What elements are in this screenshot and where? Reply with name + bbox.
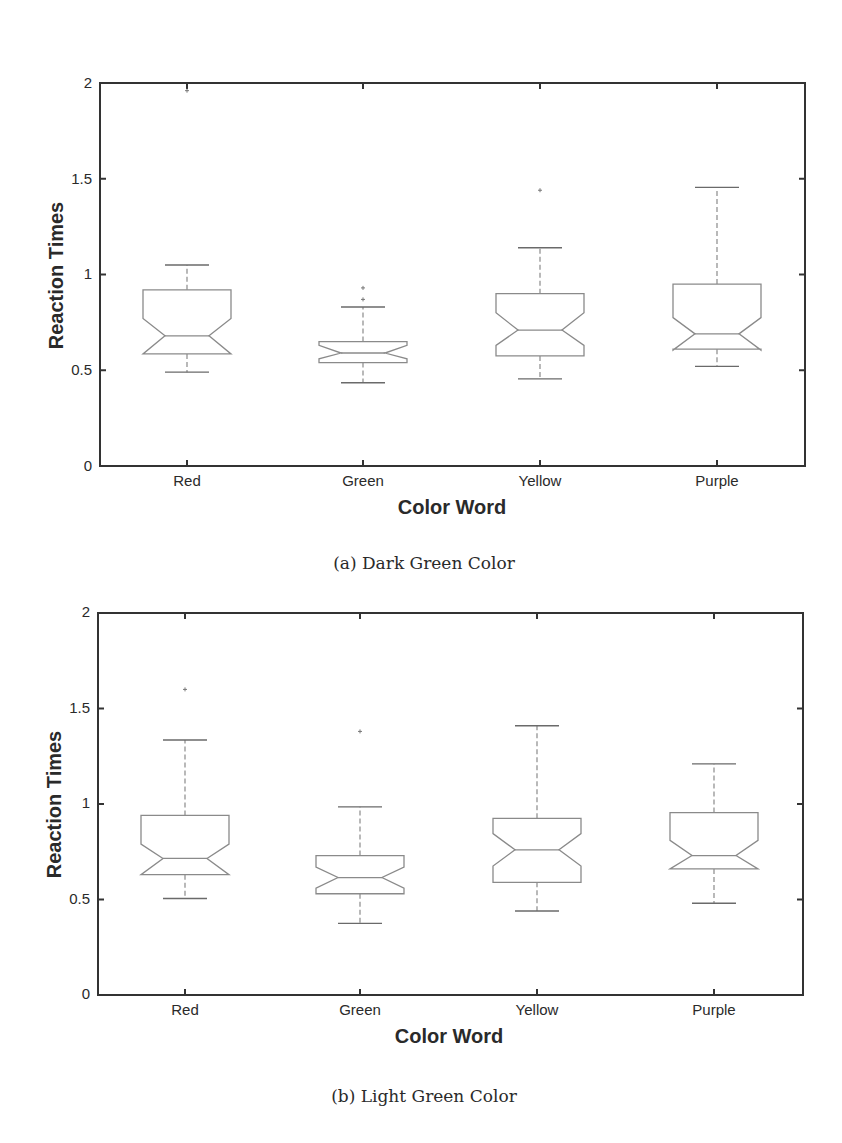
ytick-label: 2 — [50, 603, 90, 620]
boxplot-chart-b — [0, 0, 842, 1143]
xtick-label-red: Red — [135, 1001, 235, 1018]
xtick-label-green: Green — [310, 1001, 410, 1018]
boxplot-yellow — [493, 726, 581, 911]
y-axis-title: Reaction Times — [43, 705, 66, 905]
figure-b: 2 1.5 1 0.5 0 Red Green Yellow Purple Co… — [0, 0, 842, 1143]
xtick-label-yellow: Yellow — [487, 1001, 587, 1018]
boxplot-purple — [670, 764, 758, 903]
boxplot-green — [316, 729, 404, 923]
boxplot-red — [141, 687, 229, 898]
figure-caption-b: (b) Light Green Color — [3, 1086, 842, 1106]
xtick-label-purple: Purple — [664, 1001, 764, 1018]
ytick-label: 0 — [50, 985, 90, 1002]
x-axis-title: Color Word — [349, 1025, 549, 1048]
plot-frame — [98, 613, 803, 995]
